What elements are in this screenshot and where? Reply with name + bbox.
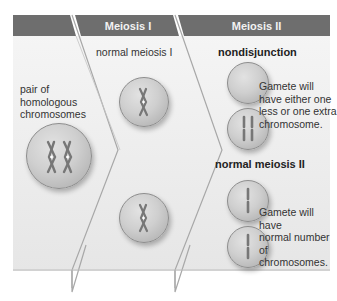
meiosis-diagram: Meiosis I Meiosis II pair of homologous …: [0, 0, 337, 301]
nondisjunction-description: Gamete will have either one less or one …: [259, 80, 337, 130]
label-nondisjunction: nondisjunction: [218, 46, 297, 59]
normal-meiosis-2-description: Gamete will have normal number of chromo…: [259, 206, 337, 269]
header-meiosis-2: Meiosis II: [183, 17, 330, 36]
label-normal-meiosis-2: normal meiosis II: [215, 158, 305, 171]
label-pair-of-homologous: pair of homologous chromosomes: [20, 83, 86, 121]
header-meiosis-1: Meiosis I: [80, 17, 176, 36]
label-normal-meiosis-1: normal meiosis I: [96, 46, 172, 59]
meiosis1-bottom-cell-icon: [119, 193, 169, 243]
meiosis1-top-cell-icon: [119, 77, 169, 127]
homologous-pair-cell-icon: [26, 123, 92, 189]
